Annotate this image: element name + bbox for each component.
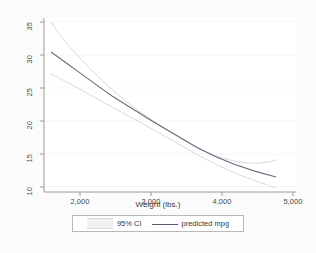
y-tick-label-10: 10 — [25, 180, 34, 196]
chart-legend[interactable]: 95% CI predicted mpg — [72, 215, 244, 232]
x-axis-title: Weight (lbs.) — [0, 200, 316, 209]
y-tick-label-20: 20 — [25, 114, 34, 130]
legend-label-ci: 95% CI — [117, 219, 142, 228]
x-tick-marks — [80, 192, 293, 196]
y-tick-label-25: 25 — [25, 81, 34, 97]
ci-band-swatch-icon — [87, 218, 113, 229]
plot-background — [44, 18, 296, 192]
line-swatch-icon — [152, 219, 178, 228]
y-tick-label-35: 35 — [25, 15, 34, 31]
legend-item-predicted-mpg[interactable]: predicted mpg — [152, 219, 230, 228]
y-tick-marks — [40, 22, 44, 187]
legend-label-predicted-mpg: predicted mpg — [182, 219, 230, 228]
y-tick-label-30: 30 — [25, 48, 34, 64]
y-tick-label-15: 15 — [25, 147, 34, 163]
chart-figure: 35 30 25 20 15 10 2,000 3,000 4,000 5,00… — [0, 0, 316, 253]
legend-item-ci[interactable]: 95% CI — [87, 218, 142, 229]
